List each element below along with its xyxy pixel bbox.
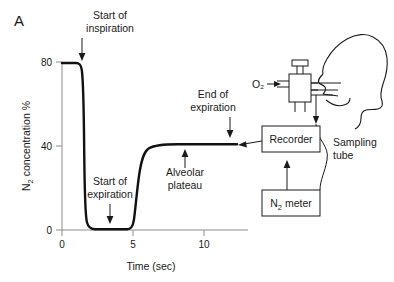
- y-tick-label-0: 0: [46, 225, 52, 236]
- x-tick-label-10: 10: [198, 239, 210, 250]
- three-way-valve: [277, 60, 318, 112]
- y-tick-label-40: 40: [41, 141, 53, 152]
- start-of-inspiration-label-line2: inspiration: [86, 22, 134, 34]
- valve-body: [289, 74, 311, 102]
- start-of-expiration-label-line1: Start of: [93, 175, 127, 187]
- recorder-box-label: Recorder: [269, 133, 313, 145]
- svg-text:N2 concentration %: N2 concentration %: [20, 101, 35, 191]
- end-of-expiration-label-line1: End of: [198, 88, 228, 100]
- sampling-tube-label-line1: Sampling: [333, 136, 377, 148]
- nitrogen-washout-figure: A 80 40 0 0 5 10 Time (sec) N2 concentra…: [0, 0, 394, 282]
- n2-meter-box: N2 meter: [262, 190, 320, 216]
- alveolar-plateau-label-line2: plateau: [168, 179, 203, 191]
- meter-to-recorder-arrow: [284, 160, 291, 190]
- oxygen-arrow-head: [274, 81, 281, 87]
- recorder-box: Recorder: [262, 126, 320, 152]
- panel-label: A: [14, 12, 24, 29]
- start-of-expiration-label-line2: expiration: [87, 188, 133, 200]
- start-of-inspiration-label-line1: Start of: [93, 9, 127, 21]
- sampling-tube-label-line2: tube: [333, 149, 354, 161]
- oxygen-inlet: O₂: [252, 78, 281, 90]
- end-of-expiration-label-line2: expiration: [190, 101, 236, 113]
- oxygen-inlet-label: O₂: [252, 78, 264, 90]
- start-of-expiration-arrow: [107, 204, 114, 224]
- subject-head: [318, 35, 387, 129]
- end-of-expiration-arrow: [227, 117, 234, 138]
- recorder-to-trace-arrow: [238, 141, 262, 148]
- start-of-inspiration-arrow: [79, 38, 86, 61]
- x-axis-title: Time (sec): [126, 260, 175, 272]
- x-tick-label-5: 5: [130, 239, 136, 250]
- valve-knob: [292, 60, 308, 66]
- y-axis-title-main: N: [20, 183, 32, 191]
- y-axis-title-tail: concentration %: [20, 101, 32, 179]
- y-axis-title: N2 concentration %: [20, 101, 35, 191]
- y-tick-label-80: 80: [41, 57, 53, 68]
- figure-root: A 80 40 0 0 5 10 Time (sec) N2 concentra…: [0, 0, 394, 282]
- x-tick-label-0: 0: [59, 239, 65, 250]
